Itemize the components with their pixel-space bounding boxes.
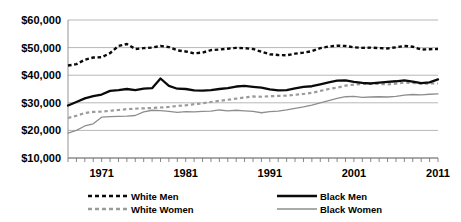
x-axis-tick-label: 2011 — [426, 167, 450, 179]
legend-label-white-men: White Men — [131, 191, 179, 202]
y-axis-tick-label: $40,000 — [21, 69, 61, 81]
chart-container: $60,000$50,000$40,000$30,000$20,000$10,0… — [0, 0, 461, 222]
x-axis-tick-label: 1991 — [258, 167, 282, 179]
plot-area: $60,000$50,000$40,000$30,000$20,000$10,0… — [0, 0, 461, 222]
series-line-black-men — [68, 79, 438, 106]
x-axis-tick-label: 1971 — [89, 167, 113, 179]
y-axis-tick-label: $60,000 — [21, 14, 61, 26]
legend-label-white-women: White Women — [131, 204, 194, 215]
legend-label-black-men: Black Men — [320, 191, 367, 202]
x-axis-tick-label: 2001 — [342, 167, 366, 179]
y-axis-tick-label: $30,000 — [21, 97, 61, 109]
series-line-white-women — [68, 83, 438, 118]
legend-label-black-women: Black Women — [320, 204, 382, 215]
y-axis-tick-label: $10,000 — [21, 152, 61, 164]
legend-group: White MenWhite WomenBlack MenBlack Women — [88, 191, 382, 215]
y-axis-labels-group: $60,000$50,000$40,000$30,000$20,000$10,0… — [21, 14, 61, 164]
x-axis-group — [68, 20, 438, 162]
series-line-white-men — [68, 44, 438, 66]
y-axis-tick-label: $50,000 — [21, 42, 61, 54]
x-axis-labels-group: 19711981199120012011 — [89, 167, 450, 179]
series-line-black-women — [68, 94, 438, 133]
chart-svg: $60,000$50,000$40,000$30,000$20,000$10,0… — [0, 0, 461, 222]
y-axis-tick-label: $20,000 — [21, 124, 61, 136]
x-axis-tick-label: 1981 — [173, 167, 197, 179]
data-series-group — [68, 44, 438, 133]
